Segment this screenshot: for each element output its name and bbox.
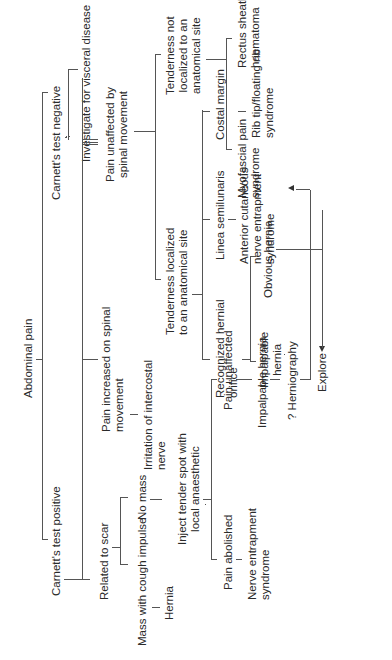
node-nerve-entrapment: Nerve entrapment syndrome xyxy=(246,508,272,600)
node-line: syndrome xyxy=(264,167,277,264)
node-tenderness-localized: Tenderness localized to an anatomical si… xyxy=(164,228,190,335)
connector xyxy=(322,250,323,348)
node-line: spinal movement xyxy=(117,87,130,182)
connector xyxy=(68,69,78,70)
node-explore: Explore xyxy=(316,353,329,392)
connector xyxy=(236,559,242,560)
node-line: Tenderness not xyxy=(164,16,177,95)
node-abdominal-pain: Abdominal pain xyxy=(22,319,35,398)
connector xyxy=(228,219,236,220)
connector xyxy=(202,111,210,112)
connector xyxy=(68,70,69,140)
node-line: Rectus sheath xyxy=(236,0,249,68)
node-hernia: Hernia xyxy=(163,586,176,620)
connector xyxy=(155,54,156,280)
connector xyxy=(202,219,210,220)
node-line: syndrome xyxy=(263,49,276,138)
node-inject-tender-spot: Inject tender spot with local anaestheti… xyxy=(176,433,202,545)
connector xyxy=(82,139,98,140)
connector xyxy=(42,92,43,540)
connector xyxy=(120,497,128,498)
node-carnett-positive: Carnett's test positive xyxy=(50,486,63,596)
connector xyxy=(82,142,98,143)
node-line: movement xyxy=(113,307,126,432)
node-line: Recognized hernial xyxy=(214,300,227,398)
node-line: Nerve entrapment xyxy=(246,508,259,600)
connector xyxy=(150,499,162,500)
node-mass-with-cough: Mass with cough impulse xyxy=(136,518,149,646)
connector xyxy=(238,111,246,112)
connector xyxy=(82,579,90,580)
connector xyxy=(130,414,138,415)
connector xyxy=(206,59,226,60)
connector xyxy=(300,379,310,380)
flowchart-canvas: Abdominal pain Carnett's test positive C… xyxy=(0,0,392,660)
connector xyxy=(226,149,232,150)
node-pain-unaffected-spinal: Pain unaffected by spinal movement xyxy=(104,87,130,182)
connector xyxy=(144,131,155,132)
node-line: Rib tip/floating rib xyxy=(250,49,263,138)
connector xyxy=(250,361,256,362)
node-line: anatomical site xyxy=(190,16,203,95)
connector xyxy=(284,354,285,355)
connector xyxy=(310,190,311,380)
node-line: syndrome xyxy=(259,508,272,600)
connector xyxy=(155,54,161,55)
connector xyxy=(205,504,206,505)
connector xyxy=(112,547,120,548)
node-related-to-scar: Related to scar xyxy=(98,523,111,600)
node-impalpable-hernia: Impalpable hernia xyxy=(258,332,284,388)
node-line: Impalpable xyxy=(258,332,271,388)
connector xyxy=(276,249,322,250)
node-line: localized to an xyxy=(177,16,190,95)
node-rib-tip: Rib tip/floating rib syndrome xyxy=(250,49,276,138)
connector xyxy=(66,136,67,138)
node-herniography: ? Herniography xyxy=(286,341,299,420)
node-line: Tenderness localized xyxy=(164,228,177,335)
node-recognized-orifice: Recognized hernial orifice xyxy=(214,300,240,398)
connector xyxy=(203,499,211,500)
connector xyxy=(82,359,98,360)
connector xyxy=(120,564,128,565)
node-line: local anaesthetic xyxy=(189,433,202,545)
connector xyxy=(202,110,203,360)
node-irritation-intercostal: Irritation of intercostal nerve xyxy=(142,360,168,470)
connector xyxy=(211,559,217,560)
node-line: Pain unaffected by xyxy=(104,87,117,182)
connector xyxy=(155,279,161,280)
node-line: Irritation of intercostal xyxy=(142,360,155,470)
node-line: hernia xyxy=(271,332,284,388)
connector xyxy=(134,131,144,132)
arrow-icon xyxy=(288,185,294,191)
node-line: nerve xyxy=(155,360,168,470)
node-line: Anterior cutaneous xyxy=(238,167,251,264)
node-line: nerve entrapment xyxy=(251,167,264,264)
node-no-mass: No mass xyxy=(136,475,149,520)
node-pain-increased: Pain increased on spinal movement xyxy=(100,307,126,432)
node-anterior-cutaneous: Anterior cutaneous nerve entrapment synd… xyxy=(238,167,277,264)
connector xyxy=(296,189,310,190)
node-costal-margin: Costal margin xyxy=(214,69,227,140)
connector xyxy=(120,497,121,565)
connector xyxy=(42,539,48,540)
node-line: Inject tender spot with xyxy=(176,433,189,545)
connector xyxy=(211,380,212,560)
node-tenderness-not-localized: Tenderness not localized to an anatomica… xyxy=(164,16,203,95)
node-line: to an anatomical site xyxy=(177,228,190,335)
node-linea-semilunaris: Linea semilunaris xyxy=(214,171,227,261)
connector xyxy=(242,359,250,360)
connector xyxy=(82,144,98,145)
node-carnett-negative: Carnett's test negative xyxy=(50,86,63,200)
connector xyxy=(82,78,83,580)
connector xyxy=(152,607,160,608)
connector xyxy=(192,294,202,295)
connector xyxy=(226,38,232,39)
node-line: orifice xyxy=(227,300,240,398)
node-line: Pain increased on spinal xyxy=(100,307,113,432)
connector xyxy=(42,92,48,93)
connector xyxy=(69,136,70,137)
connector xyxy=(250,256,251,362)
connector xyxy=(202,359,210,360)
node-pain-abolished: Pain abolished xyxy=(222,515,235,590)
connector xyxy=(64,579,82,580)
